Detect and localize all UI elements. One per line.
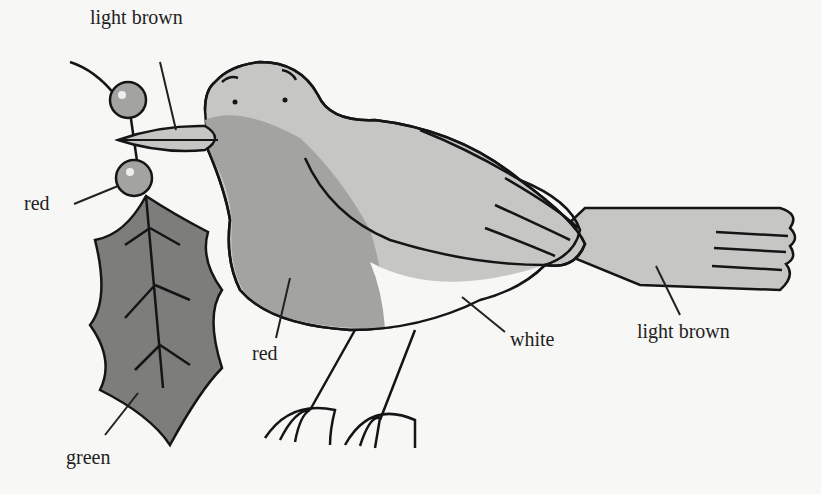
label-leaf: green [66, 446, 110, 469]
label-berry: red [24, 192, 50, 215]
berry-bottom [116, 160, 152, 196]
robin-illustration [0, 0, 821, 494]
label-belly: white [510, 328, 554, 351]
label-breast: red [252, 342, 278, 365]
label-beak: light brown [90, 6, 183, 29]
label-tail: light brown [637, 320, 730, 343]
berry-top [110, 82, 146, 118]
berry-stem [70, 62, 115, 95]
